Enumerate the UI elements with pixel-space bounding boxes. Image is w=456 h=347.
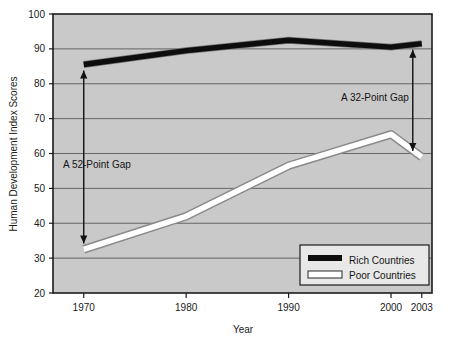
y-tick-label: 60	[34, 148, 46, 159]
y-tick-label: 20	[34, 288, 46, 299]
y-tick-label: 30	[34, 253, 46, 264]
chart-figure: 2030405060708090100 19701980199020002003…	[0, 0, 456, 347]
x-axis-title: Year	[233, 324, 254, 335]
y-tick-label: 90	[34, 43, 46, 54]
x-tick-label: 2000	[380, 302, 403, 313]
x-tick-label: 2003	[411, 302, 434, 313]
x-tick-label: 1970	[73, 302, 96, 313]
y-tick-label: 100	[28, 9, 45, 20]
legend-label-poor-countries: Poor Countries	[349, 270, 416, 281]
y-tick-label: 80	[34, 78, 46, 89]
x-tick-label: 1990	[277, 302, 300, 313]
y-tick-label: 40	[34, 218, 46, 229]
x-axis: 19701980199020002003	[73, 293, 434, 313]
legend-swatch-rich-countries	[308, 255, 342, 261]
hdi-line-chart: 2030405060708090100 19701980199020002003…	[0, 0, 456, 347]
legend[interactable]: Rich Countries Poor Countries	[300, 245, 429, 285]
right-gap-annotation-label: A 32-Point Gap	[341, 92, 409, 103]
x-tick-label: 1980	[175, 302, 198, 313]
y-tick-label: 70	[34, 113, 46, 124]
left-gap-annotation-label: A 52-Point Gap	[63, 159, 131, 170]
y-axis-title: Human Development Index Scores	[8, 76, 19, 231]
legend-label-rich-countries: Rich Countries	[349, 255, 415, 266]
legend-swatch-poor-countries	[308, 271, 342, 278]
y-axis: 2030405060708090100	[28, 9, 53, 299]
y-tick-label: 50	[34, 183, 46, 194]
